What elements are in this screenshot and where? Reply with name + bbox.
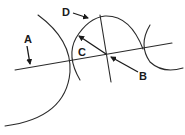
perpendicular-line — [100, 15, 111, 82]
label-d: D — [62, 6, 70, 18]
label-c: C — [78, 46, 86, 58]
arrow-b — [111, 57, 138, 72]
large-left-arc — [5, 15, 70, 126]
arrow-a — [27, 46, 30, 64]
label-b: B — [139, 70, 147, 82]
right-small-arc — [144, 25, 183, 70]
arrow-d — [73, 13, 88, 18]
main-line — [15, 43, 172, 70]
geometric-construction-diagram: A B C D — [0, 0, 185, 135]
label-a: A — [24, 33, 32, 45]
